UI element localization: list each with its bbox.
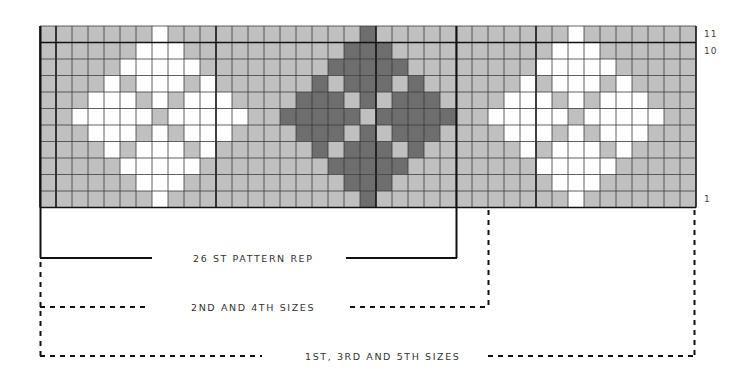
- chart-cell: [120, 125, 136, 142]
- chart-cell: [152, 92, 168, 109]
- chart-cell: [488, 43, 504, 60]
- chart-cell: [456, 142, 472, 159]
- chart-cell: [296, 59, 312, 76]
- chart-cell: [232, 92, 248, 109]
- chart-cell: [344, 59, 360, 76]
- chart-cell: [392, 76, 408, 93]
- chart-cell: [504, 43, 520, 60]
- chart-cell: [312, 26, 328, 43]
- chart-cell: [72, 92, 88, 109]
- chart-cell: [168, 158, 184, 175]
- chart-cell: [40, 142, 56, 159]
- chart-cell: [248, 92, 264, 109]
- chart-cell: [200, 43, 216, 60]
- chart-cell: [200, 175, 216, 192]
- chart-cell: [648, 26, 664, 43]
- chart-cell: [232, 109, 248, 126]
- chart-cell: [664, 142, 680, 159]
- chart-cell: [56, 26, 72, 43]
- chart-cell: [408, 191, 424, 208]
- chart-cell: [312, 92, 328, 109]
- chart-cell: [488, 109, 504, 126]
- chart-cell: [136, 109, 152, 126]
- chart-cell: [280, 92, 296, 109]
- chart-cell: [280, 125, 296, 142]
- chart-cell: [648, 109, 664, 126]
- chart-cell: [216, 76, 232, 93]
- chart-cell: [680, 26, 696, 43]
- chart-cell: [232, 191, 248, 208]
- chart-cell: [616, 158, 632, 175]
- chart-cell: [168, 76, 184, 93]
- chart-cell: [632, 125, 648, 142]
- chart-cell: [200, 142, 216, 159]
- chart-cell: [392, 26, 408, 43]
- chart-cell: [120, 191, 136, 208]
- chart-cell: [88, 59, 104, 76]
- chart-cell: [168, 59, 184, 76]
- chart-cell: [232, 142, 248, 159]
- chart-cell: [200, 76, 216, 93]
- chart-cell: [376, 125, 392, 142]
- chart-cell: [328, 175, 344, 192]
- chart-cell: [136, 92, 152, 109]
- chart-cell: [664, 43, 680, 60]
- chart-cell: [568, 191, 584, 208]
- chart-cell: [456, 59, 472, 76]
- chart-cell: [632, 26, 648, 43]
- chart-cell: [104, 175, 120, 192]
- chart-cell: [504, 59, 520, 76]
- chart-cell: [216, 92, 232, 109]
- chart-cell: [104, 191, 120, 208]
- chart-cell: [616, 142, 632, 159]
- chart-cell: [616, 175, 632, 192]
- chart-cell: [568, 92, 584, 109]
- chart-cell: [648, 92, 664, 109]
- chart-cell: [376, 43, 392, 60]
- chart-cell: [648, 158, 664, 175]
- chart-cell: [72, 191, 88, 208]
- chart-cell: [184, 92, 200, 109]
- chart-cell: [168, 26, 184, 43]
- chart-cell: [312, 59, 328, 76]
- chart-cell: [616, 43, 632, 60]
- chart-cell: [120, 142, 136, 159]
- chart-cell: [72, 109, 88, 126]
- chart-cell: [360, 191, 376, 208]
- row-label: 1: [704, 195, 711, 204]
- chart-cell: [328, 191, 344, 208]
- chart-cell: [376, 158, 392, 175]
- chart-cell: [552, 59, 568, 76]
- chart-cell: [56, 175, 72, 192]
- chart-cell: [488, 59, 504, 76]
- chart-cell: [632, 109, 648, 126]
- chart-cell: [344, 43, 360, 60]
- chart-cell: [520, 125, 536, 142]
- chart-cell: [56, 92, 72, 109]
- chart-cell: [552, 175, 568, 192]
- chart-cell: [328, 125, 344, 142]
- chart-cell: [440, 191, 456, 208]
- chart-cell: [408, 76, 424, 93]
- chart-cell: [248, 43, 264, 60]
- chart-cell: [120, 43, 136, 60]
- chart-cell: [680, 191, 696, 208]
- chart-cell: [472, 43, 488, 60]
- chart-cell: [152, 125, 168, 142]
- chart-cell: [664, 125, 680, 142]
- chart-cell: [632, 43, 648, 60]
- chart-cell: [392, 59, 408, 76]
- chart-cell: [360, 59, 376, 76]
- chart-cell: [104, 76, 120, 93]
- chart-cell: [152, 158, 168, 175]
- chart-cell: [472, 59, 488, 76]
- chart-cell: [392, 92, 408, 109]
- chart-cell: [56, 191, 72, 208]
- row-label: 10: [704, 47, 717, 56]
- chart-cell: [184, 59, 200, 76]
- chart-cell: [88, 175, 104, 192]
- chart-cell: [440, 92, 456, 109]
- chart-cell: [360, 92, 376, 109]
- chart-cell: [520, 26, 536, 43]
- chart-cell: [200, 92, 216, 109]
